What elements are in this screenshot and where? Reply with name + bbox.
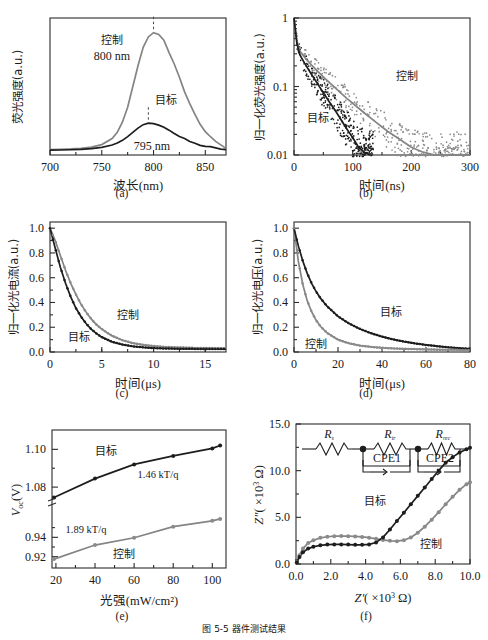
data-point [347, 135, 349, 137]
data-point [396, 339, 399, 342]
panel-label-b-wrap: (b) [244, 183, 488, 201]
data-point [339, 109, 341, 111]
data-point [147, 346, 150, 349]
data-point [407, 341, 410, 344]
axis-tick-label: 10 [148, 357, 160, 371]
data-point [368, 138, 370, 140]
data-point [352, 107, 354, 109]
axis-tick-label: 0.92 [25, 550, 46, 564]
data-point [367, 148, 369, 150]
axis-tick-label: 40 [89, 573, 101, 587]
data-point [208, 348, 211, 351]
data-point [365, 149, 367, 151]
data-point [308, 76, 310, 78]
data-point [335, 76, 337, 78]
data-point [401, 126, 403, 128]
data-point [142, 346, 145, 349]
data-point [356, 147, 358, 149]
data-point [314, 87, 316, 89]
data-point [324, 72, 326, 74]
data-point [457, 145, 459, 147]
panel-a-annotation-target: 目标 [155, 93, 177, 107]
data-point [430, 518, 434, 522]
data-point [341, 84, 343, 86]
axis-tick-label: 0.2 [273, 320, 288, 334]
data-point [171, 525, 175, 529]
data-point [415, 141, 417, 143]
data-point [337, 85, 339, 87]
data-point [345, 100, 347, 102]
data-point [456, 149, 458, 151]
data-point [451, 138, 453, 140]
panel-e-markers [52, 444, 222, 562]
data-point [311, 85, 313, 87]
data-point [363, 135, 365, 137]
panel-label-d: (d) [359, 387, 372, 399]
data-point [442, 146, 444, 148]
data-point [156, 347, 159, 350]
panel-a-xticks: 700750800850 [41, 150, 214, 174]
data-point [377, 116, 379, 118]
data-point [464, 349, 467, 352]
data-point [113, 341, 116, 344]
data-point [353, 543, 357, 547]
data-point [348, 95, 350, 97]
data-point [404, 348, 407, 351]
data-point [84, 309, 87, 312]
data-point [391, 137, 393, 139]
data-point [173, 347, 176, 350]
data-point [323, 96, 325, 98]
panel-e-annotation-ideality-target: 1.46 kT/q [138, 469, 180, 480]
data-point [345, 105, 347, 107]
data-point [368, 134, 370, 136]
panel-b-svg: 010020030010.10.01 控制 目标 时间(ns) 归一化荧光强度(… [244, 0, 488, 200]
data-point [356, 126, 358, 128]
data-point [336, 314, 339, 317]
data-point [214, 348, 217, 351]
data-point [336, 338, 339, 341]
data-point [323, 69, 325, 71]
data-point [356, 155, 358, 157]
data-point [341, 318, 344, 321]
data-point [373, 333, 376, 336]
data-point [407, 147, 409, 149]
data-point [374, 537, 378, 541]
axis-tick-label: 0 [291, 357, 297, 371]
data-point [444, 346, 447, 349]
data-point [412, 155, 414, 157]
data-point [320, 99, 322, 101]
panel-d-svg: 0204060800.00.20.40.60.81.0 目标 控制 时间(μs)… [244, 200, 488, 400]
data-point [402, 511, 406, 515]
data-point [408, 129, 410, 131]
data-point [107, 339, 110, 342]
data-point [346, 543, 350, 547]
data-point [346, 143, 348, 145]
data-point [433, 348, 436, 351]
data-point [320, 77, 322, 79]
data-point [370, 332, 373, 335]
data-point [410, 348, 413, 351]
data-point [317, 92, 319, 94]
data-point [447, 147, 449, 149]
data-point [429, 134, 431, 136]
data-point [210, 519, 214, 523]
panel-b-annotation-target: 目标 [307, 111, 329, 125]
data-point [202, 348, 205, 351]
axis-tick-label: 0.8 [29, 246, 44, 260]
data-point [78, 299, 81, 302]
data-point [378, 131, 380, 133]
data-point [436, 345, 439, 348]
data-point [317, 67, 319, 69]
data-point [427, 348, 430, 351]
data-point [406, 130, 408, 132]
data-point [431, 138, 433, 140]
data-point [379, 335, 382, 338]
data-point [334, 97, 336, 99]
data-point [347, 111, 349, 113]
data-point [132, 462, 136, 466]
data-point [421, 348, 424, 351]
data-point [332, 75, 334, 77]
data-point [467, 152, 469, 154]
data-point [352, 127, 354, 129]
data-point [316, 291, 319, 294]
